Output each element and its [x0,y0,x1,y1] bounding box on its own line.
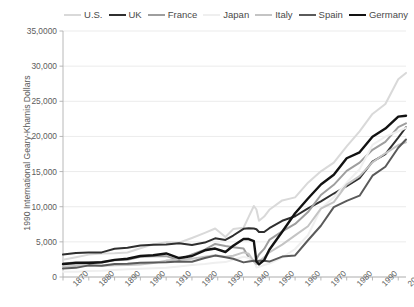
plot-area: 35,000030,00025,00020,00015,00010,0005,0… [0,0,414,307]
x-tick-label: 1960 [303,282,309,288]
x-tick-label: 1920 [200,282,206,288]
x-tick-label: 1950 [277,282,283,288]
x-tick-label: 1990 [380,282,386,288]
x-tick-label: 1890 [123,282,129,288]
x-tick-label: 2000 [406,282,412,288]
x-axis-tick-labels: 1870188018901900191019201930194019501960… [0,0,414,307]
x-tick-label: 1900 [148,282,154,288]
x-tick-label: 1910 [174,282,180,288]
gdp-per-capita-line-chart: U.S.UKFranceJapanItalySpainGermany 1990 … [0,0,414,307]
x-tick-label: 1930 [226,282,232,288]
x-tick-label: 1940 [252,282,258,288]
x-tick-label: 1880 [97,282,103,288]
x-tick-label: 1870 [71,282,77,288]
x-tick-label: 1980 [355,282,361,288]
x-tick-label: 1970 [329,282,335,288]
